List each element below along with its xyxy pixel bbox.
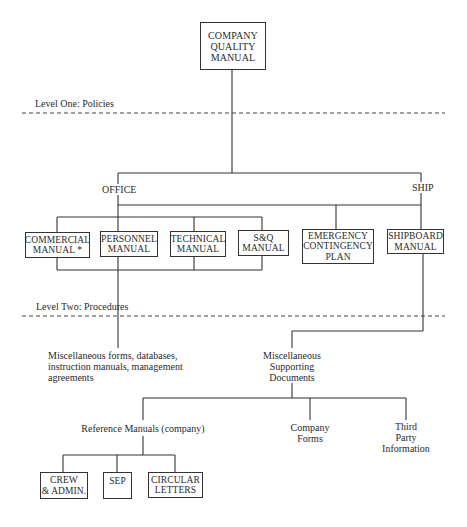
third-party-information-label: Third Party Information (378, 421, 434, 454)
shipboard-manual-box: SHIPBOARD MANUAL (387, 229, 444, 254)
company-forms-label: Company Forms (285, 422, 335, 444)
ship-branch-label: SHIP (411, 182, 435, 193)
office-procedures-text: Miscellaneous forms, databases, instruct… (48, 350, 183, 383)
commercial-manual-box: COMMERCIAL MANUAL * (25, 232, 90, 258)
level-one-label: Level One: Policies (35, 98, 114, 109)
emergency-contingency-plan-box: EMERGENCY CONTINGENCY PLAN (302, 229, 374, 264)
sep-box: SEP (103, 472, 132, 499)
reference-manuals-label: Reference Manuals (company) (78, 423, 208, 434)
sq-manual-box: S&Q MANUAL (238, 230, 289, 256)
level-two-label: Level Two: Procedures (36, 301, 128, 312)
office-branch-label: OFFICE (101, 184, 137, 195)
crew-admin-box: CREW & ADMIN. (40, 472, 88, 499)
technical-manual-box: TECHNICAL MANUAL (170, 231, 226, 257)
company-quality-manual-box: COMPANY QUALITY MANUAL (200, 22, 266, 70)
supporting-documents-label: Miscellaneous Supporting Documents (262, 350, 322, 383)
circular-letters-box: CIRCULAR LETTERS (148, 472, 203, 498)
personnel-manual-box: PERSONNEL MANUAL (100, 231, 158, 257)
